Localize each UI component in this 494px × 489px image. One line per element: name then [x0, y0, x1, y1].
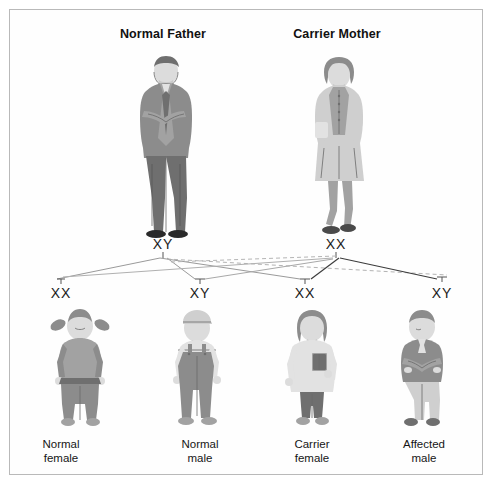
offspring-caption-1: Normal female [13, 437, 109, 465]
offspring-figure-4 [390, 308, 454, 426]
offspring-genotype-3: XX [280, 285, 330, 301]
caption-1-line-2: female [13, 451, 109, 465]
offspring-figure-1 [48, 308, 112, 426]
caption-3-line-2: female [264, 451, 360, 465]
caption-2-line-2: male [152, 451, 248, 465]
offspring-caption-2: Normal male [152, 437, 248, 465]
caption-1-line-1: Normal [13, 437, 109, 451]
caption-3-line-1: Carrier [264, 437, 360, 451]
offspring-caption-4: Affected male [376, 437, 472, 465]
caption-4-line-1: Affected [376, 437, 472, 451]
offspring-genotype-1: XX [36, 285, 86, 301]
inheritance-diagram: Normal Father Carrier Mother [0, 0, 494, 489]
caption-2-line-1: Normal [152, 437, 248, 451]
offspring-caption-3: Carrier female [264, 437, 360, 465]
caption-4-line-2: male [376, 451, 472, 465]
offspring-figure-3 [280, 308, 344, 426]
offspring-figure-2 [165, 308, 229, 426]
offspring-genotype-4: XY [417, 285, 467, 301]
offspring-genotype-2: XY [175, 285, 225, 301]
